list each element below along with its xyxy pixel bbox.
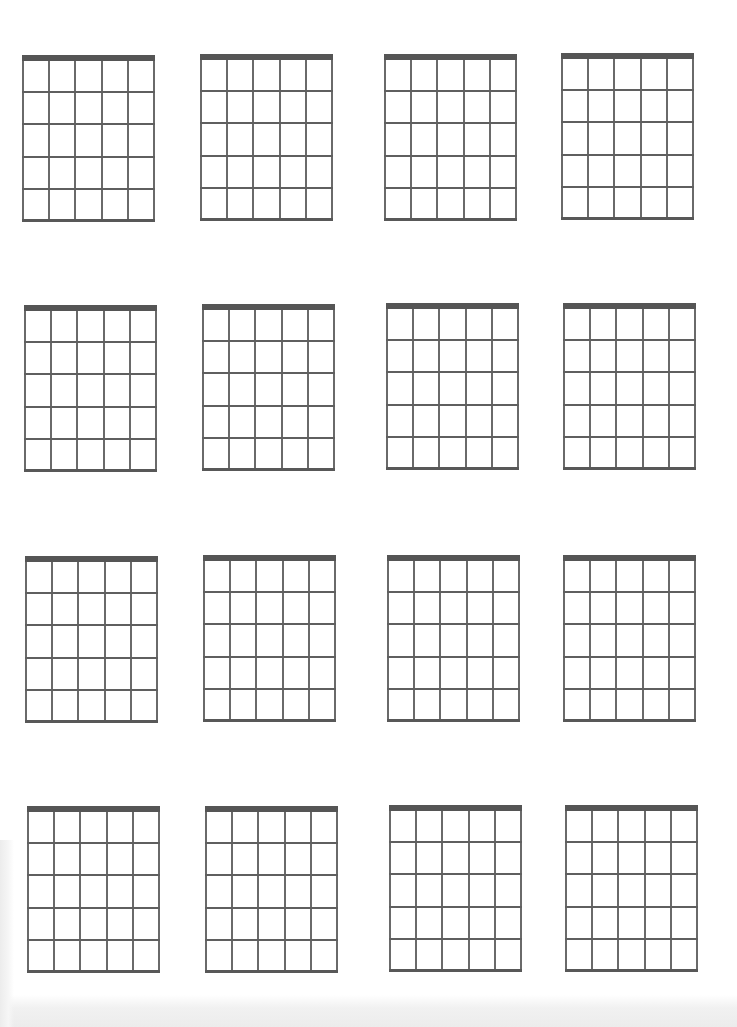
string-line xyxy=(615,555,617,722)
nut-bar xyxy=(565,805,698,811)
string-line xyxy=(48,55,50,222)
string-line xyxy=(153,55,155,222)
fret-line xyxy=(200,218,333,221)
fret-line xyxy=(22,219,155,222)
chord-diagram-r4-c4 xyxy=(565,805,698,972)
chord-diagram-r2-c3 xyxy=(386,303,519,470)
fret-line xyxy=(563,656,696,658)
chord-diagram-r3-c3 xyxy=(387,555,520,722)
nut-bar xyxy=(389,805,522,811)
fret-line xyxy=(203,656,336,658)
string-line xyxy=(692,53,694,220)
string-line xyxy=(53,806,55,973)
string-line xyxy=(491,303,493,470)
chord-diagram-r4-c3 xyxy=(389,805,522,972)
string-line xyxy=(466,555,468,722)
fret-line xyxy=(386,436,519,438)
string-line xyxy=(412,303,414,470)
string-line xyxy=(255,555,257,722)
string-line xyxy=(310,806,312,973)
fret-line xyxy=(389,873,522,875)
fret-line xyxy=(565,906,698,908)
fret-line xyxy=(386,467,519,470)
string-line xyxy=(254,304,256,471)
fret-line xyxy=(25,624,158,626)
string-line xyxy=(307,304,309,471)
fret-line xyxy=(389,938,522,940)
scan-shadow-left xyxy=(0,840,14,1027)
string-line xyxy=(489,54,491,221)
chord-diagram-r2-c2 xyxy=(202,304,335,471)
fret-line xyxy=(202,405,335,407)
chord-diagram-r4-c2 xyxy=(205,806,338,973)
fret-line xyxy=(203,623,336,625)
string-line xyxy=(694,555,696,722)
chord-diagram-r1-c2 xyxy=(200,54,333,221)
string-line xyxy=(22,55,24,222)
string-line xyxy=(284,806,286,973)
string-line xyxy=(589,303,591,470)
string-line xyxy=(331,54,333,221)
string-line xyxy=(158,806,160,973)
string-line xyxy=(226,54,228,221)
string-line xyxy=(336,806,338,973)
fret-line xyxy=(27,970,160,973)
string-line xyxy=(517,303,519,470)
fret-line xyxy=(205,907,338,909)
fret-line xyxy=(200,90,333,92)
string-line xyxy=(132,806,134,973)
string-line xyxy=(308,555,310,722)
fret-line xyxy=(563,591,696,593)
fret-line xyxy=(205,842,338,844)
fret-line xyxy=(387,623,520,625)
fret-line xyxy=(561,89,694,91)
string-line xyxy=(441,805,443,972)
string-line xyxy=(465,303,467,470)
string-line xyxy=(520,805,522,972)
fret-line xyxy=(565,938,698,940)
fret-line xyxy=(561,217,694,220)
string-line xyxy=(696,805,698,972)
fret-line xyxy=(561,186,694,188)
string-line xyxy=(104,556,106,723)
chord-diagram-r1-c4 xyxy=(561,53,694,220)
fret-line xyxy=(203,688,336,690)
fret-line xyxy=(24,438,157,440)
fret-line xyxy=(25,592,158,594)
fret-line xyxy=(22,91,155,93)
fret-line xyxy=(561,121,694,123)
string-line xyxy=(333,304,335,471)
string-line xyxy=(200,54,202,221)
fret-line xyxy=(563,467,696,470)
fret-line xyxy=(384,155,517,157)
string-line xyxy=(257,806,259,973)
string-line xyxy=(50,305,52,472)
fret-line xyxy=(205,874,338,876)
fret-line xyxy=(27,907,160,909)
nut-bar xyxy=(24,305,157,311)
fret-line xyxy=(387,719,520,722)
fret-line xyxy=(27,874,160,876)
fret-line xyxy=(203,591,336,593)
string-line xyxy=(27,806,29,973)
fret-line xyxy=(389,906,522,908)
fret-line xyxy=(565,841,698,843)
fret-line xyxy=(27,842,160,844)
fret-line xyxy=(25,720,158,723)
string-line xyxy=(387,555,389,722)
fret-line xyxy=(389,841,522,843)
fret-line xyxy=(563,404,696,406)
nut-bar xyxy=(387,555,520,561)
string-line xyxy=(24,305,26,472)
fret-line xyxy=(24,341,157,343)
fret-line xyxy=(27,939,160,941)
fret-line xyxy=(205,939,338,941)
fret-line xyxy=(563,719,696,722)
string-line xyxy=(229,555,231,722)
string-line xyxy=(415,805,417,972)
string-line xyxy=(589,555,591,722)
string-line xyxy=(642,555,644,722)
string-line xyxy=(668,555,670,722)
fret-line xyxy=(563,339,696,341)
string-line xyxy=(127,55,129,222)
